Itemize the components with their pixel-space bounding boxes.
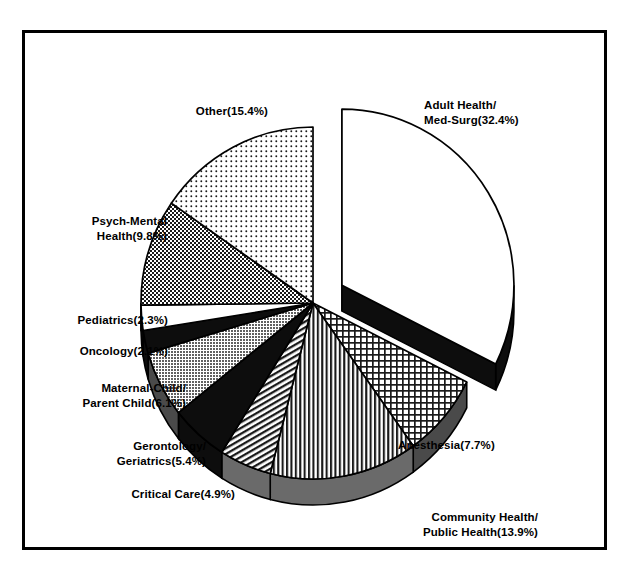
slice-label-maternal-child: Maternal-Child/ Parent Child(6.1%): [28, 381, 186, 410]
pie-chart-figure: Adult Health/ Med-Surg(32.4%) Other(15.4…: [0, 0, 628, 579]
slice-label-community-health: Community Health/ Public Health(13.9%): [368, 510, 538, 539]
slice-label-gerontology: Gerontology/ Geriatrics(5.4%): [58, 439, 206, 468]
slice-label-other: Other(15.4%): [158, 104, 268, 119]
slice-label-pediatrics: Pediatrics(2.3%): [30, 313, 168, 328]
slice-label-anesthesia: Anesthesia(7.7%): [398, 438, 538, 453]
slice-label-oncology: Oncology(2.1%): [30, 344, 168, 359]
slice-label-adult-health: Adult Health/ Med-Surg(32.4%): [424, 98, 574, 127]
slice-label-critical-care: Critical Care(4.9%): [95, 487, 235, 502]
slice-label-psych-mental-health: Psych-Mental Health(9.8%): [47, 214, 167, 243]
pie-slice: [342, 109, 514, 364]
